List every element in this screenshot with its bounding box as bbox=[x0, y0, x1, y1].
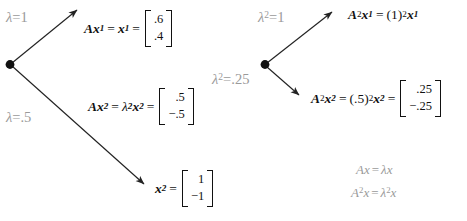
vector-subscript: 2 bbox=[162, 184, 167, 193]
matrix-entry: −.25 bbox=[409, 98, 432, 115]
vector-arrow-left-down bbox=[12, 66, 144, 184]
column-vector: .5 −.5 bbox=[159, 88, 193, 125]
column-vector: .25 −.25 bbox=[400, 80, 441, 117]
vector-x-symbol-2: x bbox=[118, 22, 125, 36]
vector-x-symbol-2: x bbox=[387, 162, 393, 177]
matrix-A-symbol: A bbox=[88, 100, 97, 114]
equals-sign-2: = bbox=[388, 92, 396, 106]
equals-sign-1: = bbox=[339, 92, 347, 106]
equals-sign: = bbox=[169, 182, 177, 196]
matrix-entries: 1 −1 bbox=[188, 170, 207, 207]
lambda-value: 1 bbox=[20, 9, 27, 25]
vector-subscript: 2 bbox=[331, 94, 336, 103]
column-vector: .6 .4 bbox=[145, 10, 172, 47]
origin-dot-left bbox=[6, 60, 15, 69]
vector-x-symbol: x bbox=[363, 185, 369, 200]
matrix-entry: −1 bbox=[191, 188, 204, 205]
vector-x-symbol-2: x bbox=[391, 185, 397, 200]
matrix-A-symbol: A bbox=[84, 22, 93, 36]
origin-dot-right bbox=[261, 60, 270, 69]
matrix-entry: .5 bbox=[175, 89, 184, 106]
formula-A2x-equals-lambda2-x: A2x=λ2x bbox=[351, 186, 396, 199]
annotation-lambda-squared-equals-quarter: λ2=.25 bbox=[212, 72, 249, 87]
lambda-value: .5 bbox=[20, 109, 31, 125]
matrix-entries: .25 −.25 bbox=[406, 80, 435, 117]
equals-sign: = bbox=[372, 162, 379, 177]
vector-subscript-2: 2 bbox=[139, 102, 144, 111]
vector-x-symbol-2: x bbox=[407, 8, 414, 22]
annotation-lambda-squared-equals-1: λ2=1 bbox=[258, 10, 285, 25]
bracket-right bbox=[435, 80, 441, 117]
bracket-right bbox=[207, 170, 213, 207]
matrix-entry: .4 bbox=[154, 28, 163, 45]
eigenvector-diagram: λ=1 λ=.5 Ax1=x1= .6 .4 Ax2=λ2x2= .5 −.5 … bbox=[0, 0, 467, 221]
equation-A2x2: A2x2=(.5)2x2= .25 −.25 bbox=[311, 80, 441, 117]
vector-x-symbol: x bbox=[155, 182, 162, 196]
matrix-entries: .6 .4 bbox=[151, 10, 166, 47]
equation-x2: x2= 1 −1 bbox=[155, 170, 213, 207]
equals-sign-1: = bbox=[107, 22, 115, 36]
equation-Ax2: Ax2=λ2x2= .5 −.5 bbox=[88, 88, 194, 125]
vector-subscript: 1 bbox=[100, 24, 105, 33]
equation-Ax1: Ax1=x1= .6 .4 bbox=[84, 10, 172, 47]
vector-x-symbol: x bbox=[93, 22, 100, 36]
vector-subscript: 1 bbox=[368, 10, 373, 19]
bracket-right bbox=[188, 88, 194, 125]
equals-sign-2: = bbox=[132, 22, 140, 36]
vector-subscript-2: 1 bbox=[125, 24, 130, 33]
matrix-A-symbol: A bbox=[348, 8, 357, 22]
formula-Ax-equals-lambda-x: Ax=λx bbox=[356, 163, 393, 176]
vector-subscript-2: 1 bbox=[414, 10, 419, 19]
vector-subscript-2: 2 bbox=[380, 94, 385, 103]
lambda-value: .25 bbox=[231, 71, 249, 87]
matrix-entry: 1 bbox=[198, 171, 204, 188]
equals-sign-1: = bbox=[111, 100, 119, 114]
bracket-right bbox=[166, 10, 172, 47]
column-vector: 1 −1 bbox=[182, 170, 213, 207]
matrix-A-symbol: A bbox=[356, 162, 364, 177]
matrix-A-symbol: A bbox=[351, 185, 359, 200]
matrix-entries: .5 −.5 bbox=[165, 88, 187, 125]
matrix-entry: −.5 bbox=[168, 106, 184, 123]
equation-A2x1: A2x1=(1)2x1 bbox=[348, 8, 418, 22]
coefficient: (.5) bbox=[350, 92, 369, 106]
annotation-lambda-equals-1: λ=1 bbox=[6, 10, 28, 25]
matrix-entry: .25 bbox=[416, 81, 432, 98]
matrix-A-symbol: A bbox=[311, 92, 320, 106]
vector-arrow-right-down bbox=[267, 67, 299, 95]
vector-x-symbol: x bbox=[97, 100, 104, 114]
coefficient: (1) bbox=[387, 8, 403, 22]
annotation-lambda-equals-half: λ=.5 bbox=[6, 110, 31, 125]
equals-sign: = bbox=[376, 8, 384, 22]
vector-subscript: 2 bbox=[104, 102, 109, 111]
lambda-value: 1 bbox=[277, 9, 284, 25]
equals-sign: = bbox=[371, 185, 378, 200]
equals-sign-2: = bbox=[147, 100, 155, 114]
vector-x-symbol: x bbox=[364, 162, 370, 177]
matrix-entry: .6 bbox=[154, 11, 163, 28]
vector-x-symbol: x bbox=[362, 8, 369, 22]
